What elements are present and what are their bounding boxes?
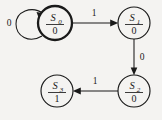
fsm-canvas: 0 1 0 1 S 0 0 — [0, 0, 162, 120]
transition-s1-to-s2-arrowhead — [131, 67, 138, 75]
state-node-s2-name: S — [129, 80, 135, 91]
state-node-s3-output: 1 — [55, 93, 60, 104]
transition-label-s2-to-s3: 1 — [93, 76, 98, 86]
state-node-s1-name: S — [129, 12, 135, 23]
state-node-s0-name: S — [50, 12, 56, 23]
state-node-s3-name: S — [52, 80, 58, 91]
transition-s1-to-s2: 0 — [131, 39, 145, 75]
state-node-s0[interactable]: S 0 0 — [38, 6, 72, 40]
transition-s2-to-s3-arrowhead — [73, 88, 81, 95]
state-node-s2-output: 0 — [132, 93, 137, 104]
transition-s0-to-s1-arrowhead — [110, 20, 118, 27]
state-node-s0-output: 0 — [53, 25, 58, 36]
transition-s0-to-s1: 1 — [73, 8, 119, 26]
state-node-s2[interactable]: S 2 0 — [118, 75, 150, 107]
transition-label-s0-to-s1: 1 — [92, 8, 97, 18]
state-node-s1-output: 0 — [132, 25, 137, 36]
transition-label-s1-to-s2: 0 — [140, 52, 145, 62]
state-machine-diagram: 0 1 0 1 S 0 0 — [0, 0, 162, 120]
transition-s2-to-s3: 1 — [73, 76, 118, 94]
state-node-s3[interactable]: S 3 1 — [41, 75, 73, 107]
transition-label-s0-to-s0: 0 — [7, 18, 12, 28]
state-node-s1[interactable]: S 1 0 — [118, 7, 150, 39]
